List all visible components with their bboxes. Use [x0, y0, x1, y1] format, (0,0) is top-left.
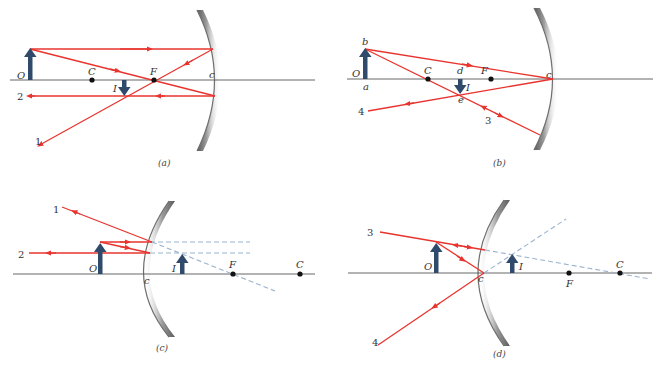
concave-mirror — [197, 10, 221, 151]
panel-caption: (a) — [158, 158, 171, 168]
object-label: O — [17, 70, 25, 81]
focal-point — [230, 271, 235, 276]
object-label: O — [89, 263, 97, 274]
object-top-label: b — [362, 36, 368, 47]
panel-caption: (b) — [493, 158, 506, 168]
ray-number-3: 3 — [367, 227, 373, 238]
object-arrow — [359, 48, 372, 79]
object-base-label: a — [363, 81, 369, 92]
object-label: O — [352, 68, 360, 79]
center-label: C — [88, 66, 96, 77]
image-label: I — [171, 263, 177, 274]
focus-label: F — [480, 65, 489, 76]
panel-c: 1 2 O c I F C (c) — [13, 201, 315, 353]
ray-number-4: 4 — [358, 106, 364, 117]
image-label: I — [112, 83, 118, 94]
vertex-label: c — [144, 275, 150, 286]
panel-a: O C F c I 2 1 (a) — [10, 10, 315, 168]
vertex-label: c — [209, 69, 215, 80]
image-label: I — [518, 261, 524, 272]
ray-number-1: 1 — [53, 204, 59, 215]
center-label: C — [616, 259, 624, 270]
focal-point — [151, 77, 156, 82]
ray-number-2: 2 — [18, 249, 24, 260]
center-label: C — [424, 65, 432, 76]
ray-number-3: 3 — [485, 115, 491, 126]
vertex-label: c — [546, 69, 552, 80]
panel-b: b O a C d F c I e 4 3 (b) — [347, 8, 653, 168]
image-tip-label: e — [458, 94, 464, 105]
image-arrow — [454, 79, 467, 94]
object-arrow — [24, 48, 37, 80]
center-point — [617, 270, 622, 275]
ray-diagram-figure: O C F c I 2 1 (a) b O a C — [0, 0, 664, 369]
center-label: C — [296, 259, 304, 270]
focus-label: F — [149, 66, 158, 77]
image-base-label: d — [457, 65, 463, 76]
ray-number-4: 4 — [372, 337, 378, 348]
focal-point — [566, 270, 571, 275]
image-arrow — [176, 254, 189, 274]
panel-caption: (c) — [156, 343, 169, 353]
image-arrow — [118, 80, 131, 96]
convex-mirror — [144, 201, 176, 337]
ray-number-1: 1 — [35, 136, 41, 147]
center-point — [425, 76, 430, 81]
focal-point — [488, 76, 493, 81]
focus-label: F — [565, 278, 574, 289]
panel-caption: (d) — [493, 349, 506, 359]
center-point — [89, 77, 94, 82]
center-point — [297, 271, 302, 276]
vertex-label: c — [478, 273, 484, 284]
image-label: I — [465, 82, 471, 93]
panel-d: 3 4 O c I F C (d) — [348, 200, 652, 359]
ray-number-2: 2 — [17, 91, 23, 102]
focus-label: F — [228, 259, 237, 270]
object-label: O — [424, 261, 432, 272]
